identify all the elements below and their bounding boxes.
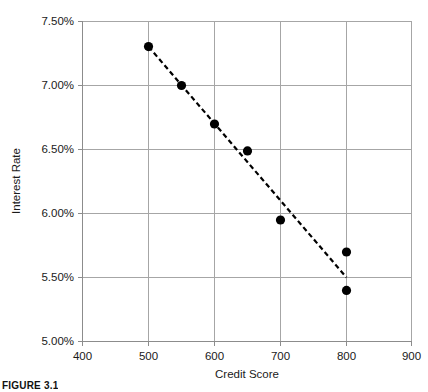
x-tick-label-400: 400 bbox=[73, 350, 92, 362]
x-tick-label-900: 900 bbox=[402, 350, 421, 362]
x-tick-label-500: 500 bbox=[139, 350, 158, 362]
plot-area-background bbox=[82, 21, 412, 341]
data-point[interactable] bbox=[177, 81, 186, 90]
x-tick-label-600: 600 bbox=[205, 350, 224, 362]
x-axis-tick-labels: 400 500 600 700 800 900 bbox=[73, 350, 421, 362]
x-axis-title: Credit Score bbox=[215, 368, 279, 380]
y-tick-label-6.00: 6.00% bbox=[41, 207, 74, 219]
figure-caption: FIGURE 3.1 bbox=[2, 379, 58, 392]
y-axis-tick-labels: 7.50% 7.00% 6.50% 6.00% 5.50% 5.00% bbox=[41, 15, 74, 347]
data-point[interactable] bbox=[210, 119, 219, 128]
y-tick-label-7.00: 7.00% bbox=[41, 79, 74, 91]
data-point[interactable] bbox=[144, 42, 153, 51]
y-axis-tickmarks bbox=[78, 22, 82, 342]
y-tick-label-7.50: 7.50% bbox=[41, 15, 74, 27]
scatter-chart: 7.50% 7.00% 6.50% 6.00% 5.50% 5.00% 400 … bbox=[0, 0, 428, 392]
x-tick-label-700: 700 bbox=[271, 350, 290, 362]
data-point[interactable] bbox=[243, 146, 252, 155]
y-tick-label-6.50: 6.50% bbox=[41, 143, 74, 155]
y-tick-label-5.00: 5.00% bbox=[41, 335, 74, 347]
y-axis-title: Interest Rate bbox=[10, 148, 22, 214]
data-point[interactable] bbox=[342, 286, 351, 295]
figure-container: 7.50% 7.00% 6.50% 6.00% 5.50% 5.00% 400 … bbox=[0, 0, 428, 392]
x-tick-label-800: 800 bbox=[337, 350, 356, 362]
data-point[interactable] bbox=[342, 247, 351, 256]
data-point[interactable] bbox=[276, 215, 285, 224]
y-tick-label-5.50: 5.50% bbox=[41, 271, 74, 283]
